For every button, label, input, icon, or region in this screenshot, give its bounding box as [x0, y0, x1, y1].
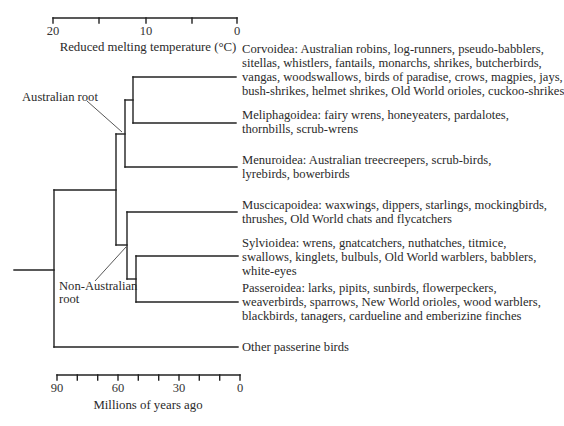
clade-line: bush-shrikes, helmet shrikes, Old World … [242, 84, 564, 98]
australian-root-pointer [87, 101, 122, 132]
bottom-axis [57, 375, 240, 380]
clade-line: thornbills, scrub-wrens [242, 122, 509, 136]
clade-line: sitellas, whistlers, fantails, monarchs,… [242, 56, 564, 70]
clade-line: weaverbirds, sparrows, New World orioles… [242, 295, 541, 309]
top-axis-tick-10: 10 [140, 24, 153, 39]
clade-line: blackbirds, tanagers, cardueline and emb… [242, 309, 541, 323]
clade-menuroidea: Menuroidea: Australian treecreepers, scr… [242, 153, 491, 181]
non-australian-root-label-line1: Non-Australian [59, 280, 137, 292]
clade-line: vangas, woodswallows, birds of paradise,… [242, 70, 564, 84]
clade-corvoidea: Corvoidea: Australian robins, log-runner… [242, 42, 564, 98]
clade-passeroidea: Passeroidea: larks, pipits, sunbirds, fl… [242, 281, 541, 323]
clade-line: Muscicapoidea: waxwings, dippers, starli… [242, 198, 547, 212]
top-axis-tick-20: 20 [47, 24, 60, 39]
bottom-axis-title: Millions of years ago [93, 398, 202, 413]
bottom-axis-tick-30: 30 [173, 381, 186, 396]
top-axis-title: Reduced melting temperature (°C) [60, 40, 237, 55]
non-australian-root-label-line2: root [59, 293, 79, 305]
clade-sylvioidea: Sylvioidea: wrens, gnatcatchers, nuthatc… [242, 236, 536, 278]
clade-line: Menuroidea: Australian treecreepers, scr… [242, 153, 491, 167]
clade-line: Passeroidea: larks, pipits, sunbirds, fl… [242, 281, 541, 295]
tree-branches [14, 77, 238, 347]
bottom-axis-tick-60: 60 [112, 381, 125, 396]
bottom-axis-tick-0: 0 [237, 381, 243, 396]
top-axis [53, 18, 237, 23]
clade-other-passerines: Other passerine birds [242, 340, 349, 354]
australian-root-label: Australian root [22, 91, 98, 103]
clade-line: Meliphagoidea: fairy wrens, honeyeaters,… [242, 108, 509, 122]
clade-line: Sylvioidea: wrens, gnatcatchers, nuthatc… [242, 236, 536, 250]
clade-line: Corvoidea: Australian robins, log-runner… [242, 42, 564, 56]
bottom-axis-tick-90: 90 [51, 381, 64, 396]
non-australian-root-pointer [95, 247, 126, 281]
top-axis-tick-0: 0 [234, 24, 240, 39]
clade-line: thrushes, Old World chats and flycatcher… [242, 212, 547, 226]
clade-line: swallows, kinglets, bulbuls, Old World w… [242, 250, 536, 264]
clade-line: lyrebirds, bowerbirds [242, 167, 491, 181]
clade-line: Other passerine birds [242, 340, 349, 354]
clade-meliphagoidea: Meliphagoidea: fairy wrens, honeyeaters,… [242, 108, 509, 136]
clade-muscicapoidea: Muscicapoidea: waxwings, dippers, starli… [242, 198, 547, 226]
clade-line: white-eyes [242, 264, 536, 278]
